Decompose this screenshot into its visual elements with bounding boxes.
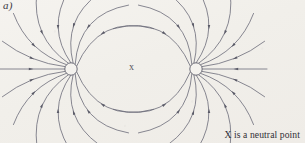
field-line <box>71 75 99 143</box>
field-line <box>58 75 71 143</box>
field-arrowhead <box>40 30 43 35</box>
left-charge <box>65 63 77 75</box>
field-line <box>138 74 191 133</box>
field-line <box>77 72 154 113</box>
field-arrowhead <box>224 30 227 35</box>
field-arrowhead <box>40 103 43 108</box>
field-arrowhead <box>234 68 239 71</box>
field-arrowhead <box>208 108 210 113</box>
field-arrowhead <box>29 68 34 71</box>
field-line <box>196 75 209 143</box>
field-arrowhead <box>192 110 195 115</box>
field-line <box>138 5 191 64</box>
field-arrowhead <box>224 103 227 108</box>
field-arrowhead <box>233 56 238 59</box>
field-arrowhead <box>101 31 106 34</box>
field-arrowhead <box>162 31 167 34</box>
field-line <box>75 5 128 64</box>
field-line <box>169 75 197 143</box>
field-arrowhead <box>29 79 34 82</box>
field-arrowhead <box>208 25 210 30</box>
field-arrowhead <box>192 23 195 28</box>
field-arrowhead <box>101 103 106 106</box>
field-line <box>113 72 190 113</box>
right-charge <box>190 63 202 75</box>
field-line <box>36 75 68 143</box>
field-arrowhead <box>29 56 34 59</box>
field-arrowhead <box>233 79 238 82</box>
field-line <box>113 26 190 67</box>
field-line <box>58 0 71 63</box>
field-line <box>75 74 128 133</box>
field-arrowhead <box>73 23 76 28</box>
figure-caption: X is a neutral point <box>224 129 300 140</box>
panel-label: a) <box>3 0 13 11</box>
field-arrowhead <box>57 108 59 113</box>
field-line <box>196 0 209 63</box>
field-arrowhead <box>73 110 76 115</box>
field-line-figure: a) x X is a neutral point <box>0 0 305 143</box>
neutral-point-marker: x <box>129 61 134 72</box>
field-arrowhead <box>57 25 59 30</box>
field-arrowhead <box>162 103 167 106</box>
field-line <box>77 26 154 67</box>
field-line-canvas <box>0 0 305 143</box>
